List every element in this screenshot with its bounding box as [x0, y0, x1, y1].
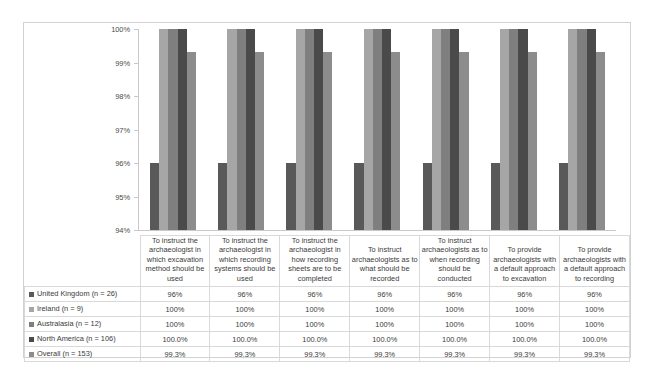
table-cell-value: 100% [560, 302, 630, 317]
table-cell-value: 96% [560, 287, 630, 302]
legend-label: Overall (n = 153) [37, 350, 92, 359]
column-header: To instruct archaeologists as to when re… [420, 236, 490, 287]
bar [459, 52, 468, 230]
table-cell-value: 100.0% [210, 332, 280, 347]
legend-entry[interactable]: North America (n = 106) [25, 332, 141, 347]
bar [168, 29, 177, 230]
bar [364, 29, 373, 230]
table-cell-value: 99.3% [420, 347, 490, 362]
bar [509, 29, 518, 230]
legend-swatch-icon [29, 307, 34, 312]
x-axis-line [138, 230, 616, 231]
y-axis-tick-label: 98% [115, 92, 130, 101]
bar [237, 29, 246, 230]
bar [577, 29, 586, 230]
table-cell-value: 96% [280, 287, 350, 302]
table-cell-value: 96% [140, 287, 210, 302]
y-axis-tick-label: 95% [115, 192, 130, 201]
column-header: To provide archaeologists with a default… [560, 236, 630, 287]
table-cell-value: 100% [490, 317, 560, 332]
legend-label: Australasia (n = 12) [37, 320, 101, 329]
bar [382, 29, 391, 230]
table-cell-value: 100% [350, 317, 420, 332]
bar-group [343, 29, 411, 230]
bar-group [480, 29, 548, 230]
bar [354, 163, 363, 230]
legend-entry[interactable]: United Kingdom (n = 26) [25, 287, 141, 302]
bar-group [139, 29, 207, 230]
y-axis-tick-mark [134, 63, 138, 64]
data-table: To instruct the archaeologist in which e… [24, 235, 630, 358]
bar [423, 163, 432, 230]
bar [218, 163, 227, 230]
table-cell-value: 99.3% [560, 347, 630, 362]
table-cell-value: 100% [350, 302, 420, 317]
column-header: To instruct archaeologists as to what sh… [350, 236, 420, 287]
legend-entry[interactable]: Ireland (n = 9) [25, 302, 141, 317]
bar [432, 29, 441, 230]
legend-entry[interactable]: Australasia (n = 12) [25, 317, 141, 332]
chart-frame: 100%99%98%97%96%95%94% To instruct the a… [23, 22, 631, 358]
legend-swatch-icon [29, 352, 34, 357]
bar [373, 29, 382, 230]
legend-label: North America (n = 106) [37, 335, 116, 344]
table-cell-value: 100% [210, 302, 280, 317]
y-axis-labels: 100%99%98%97%96%95%94% [100, 29, 134, 231]
y-axis-tick-mark [134, 130, 138, 131]
table-cell-value: 100.0% [560, 332, 630, 347]
bar [528, 52, 537, 230]
plot-area: 100%99%98%97%96%95%94% [24, 23, 630, 235]
bar [187, 52, 196, 230]
legend-entry[interactable]: Overall (n = 153) [25, 347, 141, 362]
y-axis-tick-mark [134, 230, 138, 231]
table-cell-value: 99.3% [280, 347, 350, 362]
bar-group [412, 29, 480, 230]
table-cell-value: 96% [420, 287, 490, 302]
table-cell-value: 100% [490, 302, 560, 317]
table-cell-value: 100% [140, 317, 210, 332]
table-cell-value: 100.0% [140, 332, 210, 347]
table-cell-value: 100% [210, 317, 280, 332]
y-axis-tick-mark [134, 29, 138, 30]
bar [178, 29, 187, 230]
table-cell-value: 100% [140, 302, 210, 317]
table-cell-value: 100% [560, 317, 630, 332]
bar [246, 29, 255, 230]
bar [391, 52, 400, 230]
y-axis-tick-label: 97% [115, 125, 130, 134]
bar-group [207, 29, 275, 230]
table-row: North America (n = 106)100.0%100.0%100.0… [25, 332, 630, 347]
legend-swatch-icon [29, 322, 34, 327]
series-value-table: To instruct the archaeologist in which e… [24, 235, 630, 362]
bar [296, 29, 305, 230]
bar [255, 52, 264, 230]
y-axis-tick-mark [134, 163, 138, 164]
bar [587, 29, 596, 230]
bar [314, 29, 323, 230]
column-header: To instruct the archaeologist in which e… [140, 236, 210, 287]
y-axis-tick-mark [134, 96, 138, 97]
y-axis-tick-label: 99% [115, 58, 130, 67]
table-cell-value: 99.3% [140, 347, 210, 362]
table-cell-value: 100.0% [350, 332, 420, 347]
bar-group [275, 29, 343, 230]
bar [159, 29, 168, 230]
y-axis-tick-mark [134, 197, 138, 198]
legend-label: Ireland (n = 9) [37, 305, 83, 314]
bar-groups [139, 29, 616, 230]
legend-swatch-icon [29, 292, 34, 297]
table-header-row: To instruct the archaeologist in which e… [25, 236, 630, 287]
table-row: United Kingdom (n = 26)96%96%96%96%96%96… [25, 287, 630, 302]
table-cell-value: 96% [210, 287, 280, 302]
table-cell-value: 100.0% [420, 332, 490, 347]
table-cell-value: 100% [280, 317, 350, 332]
table-cell-value: 100.0% [280, 332, 350, 347]
bar [450, 29, 459, 230]
legend-swatch-icon [29, 337, 34, 342]
bar-group [548, 29, 616, 230]
table-cell-value: 100% [280, 302, 350, 317]
table-cell-value: 100.0% [490, 332, 560, 347]
legend-label: United Kingdom (n = 26) [37, 290, 117, 299]
table-corner-cell [25, 236, 141, 287]
bar [323, 52, 332, 230]
